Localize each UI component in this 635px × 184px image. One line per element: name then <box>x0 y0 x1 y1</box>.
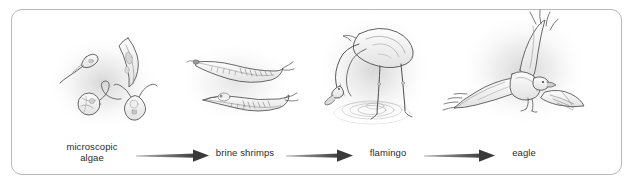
chain-label-algae: microscopic algae <box>56 142 128 163</box>
food-chain-arrows <box>136 150 495 162</box>
chain-label-flamingo: flamingo <box>358 148 418 159</box>
food-chain-figure: microscopic algae brine shrimps flamingo… <box>0 0 635 184</box>
arrow-flamingo-to-eagle <box>424 150 495 162</box>
chain-label-shrimp: brine shrimps <box>212 148 278 159</box>
chain-label-eagle: eagle <box>500 148 548 159</box>
arrow-algae-to-shrimp <box>136 150 209 162</box>
arrow-shrimp-to-flamingo <box>286 150 353 162</box>
